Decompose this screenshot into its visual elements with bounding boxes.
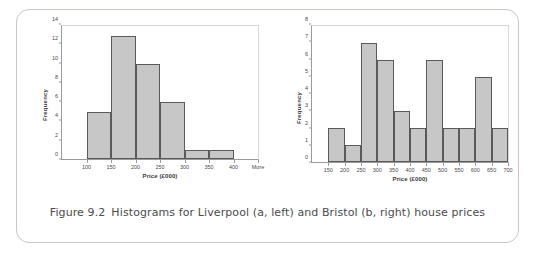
plot-wrap-liverpool: 02468101214 100150200250300350400More Pr… <box>61 25 259 160</box>
y-tick-mark <box>59 81 62 82</box>
y-tick-mark <box>59 24 62 25</box>
histogram-bristol: Frequency 012345678 15020025030035040045… <box>275 10 520 200</box>
x-tick-mark <box>160 160 161 163</box>
y-tick-label: 5 <box>305 68 311 74</box>
y-tick-mark <box>59 120 62 121</box>
histogram-bar <box>394 111 410 162</box>
x-tick-label: 450 <box>422 167 431 173</box>
x-tick-label: 700 <box>503 167 512 173</box>
y-tick-mark <box>309 127 312 128</box>
figure-frame: Frequency 02468101214 100150200250300350… <box>16 9 519 243</box>
x-tick-label: 150 <box>106 164 115 170</box>
y-tick-label: 4 <box>55 112 61 118</box>
figure-caption: Figure 9.2Histograms for Liverpool (a, l… <box>17 206 518 219</box>
histogram-bar <box>377 60 393 162</box>
y-tick-mark <box>309 24 312 25</box>
x-tick-label: 150 <box>324 167 333 173</box>
x-tick-mark <box>136 160 137 163</box>
y-tick-mark <box>309 110 312 111</box>
y-tick-mark <box>309 75 312 76</box>
x-tick-mark <box>258 160 259 163</box>
y-tick-label: 8 <box>305 16 311 22</box>
x-tick-mark <box>361 163 362 166</box>
x-tick-label: More <box>252 164 265 170</box>
x-tick-mark <box>345 163 346 166</box>
y-tick-label: 7 <box>305 33 311 39</box>
y-axis-label-liverpool: Frequency <box>42 75 48 135</box>
figure-caption-text: Histograms for Liverpool (a, left) and B… <box>111 206 485 219</box>
bars-bristol <box>312 26 508 162</box>
histogram-bar <box>209 150 234 160</box>
x-tick-label: 200 <box>131 164 140 170</box>
histogram-bar <box>443 128 459 162</box>
x-tick-label: 100 <box>82 164 91 170</box>
y-tick-label: 8 <box>55 74 61 80</box>
y-tick-label: 1 <box>305 137 311 143</box>
histogram-bar <box>345 145 361 162</box>
bars-liverpool <box>62 26 258 159</box>
x-axis-label-bristol: Price (£000) <box>311 176 509 182</box>
histogram-bar <box>185 150 210 160</box>
x-tick-label: 350 <box>204 164 213 170</box>
x-tick-label: 650 <box>487 167 496 173</box>
histogram-bar <box>87 112 112 160</box>
y-tick-mark <box>309 144 312 145</box>
y-tick-mark <box>309 41 312 42</box>
y-tick-label: 14 <box>52 16 61 22</box>
histogram-bar <box>136 64 161 159</box>
y-tick-label: 4 <box>305 85 311 91</box>
y-tick-label: 10 <box>52 55 61 61</box>
charts-row: Frequency 02468101214 100150200250300350… <box>17 10 520 200</box>
x-tick-mark <box>410 163 411 166</box>
x-tick-mark <box>185 160 186 163</box>
y-tick-label: 6 <box>305 51 311 57</box>
x-tick-mark <box>234 160 235 163</box>
x-tick-mark <box>394 163 395 166</box>
histogram-bar <box>475 77 491 162</box>
y-tick-mark <box>59 159 62 160</box>
histogram-bar <box>361 43 377 162</box>
y-axis-label-bristol: Frequency <box>296 78 302 138</box>
x-tick-label: 350 <box>389 167 398 173</box>
x-tick-label: 400 <box>405 167 414 173</box>
x-tick-mark <box>492 163 493 166</box>
x-tick-mark <box>475 163 476 166</box>
y-tick-mark <box>309 58 312 59</box>
x-tick-label: 600 <box>471 167 480 173</box>
y-tick-label: 2 <box>55 132 61 138</box>
x-tick-mark <box>328 163 329 166</box>
y-tick-label: 2 <box>305 120 311 126</box>
y-tick-label: 12 <box>52 35 61 41</box>
histogram-bar <box>410 128 426 162</box>
y-tick-label: 3 <box>305 102 311 108</box>
histogram-bar <box>426 60 442 162</box>
plot-wrap-bristol: 012345678 150200250300350400450500550600… <box>311 25 509 163</box>
histogram-bar <box>111 36 136 160</box>
x-tick-mark <box>87 160 88 163</box>
y-tick-label: 6 <box>55 93 61 99</box>
x-tick-label: 400 <box>229 164 238 170</box>
x-tick-mark <box>459 163 460 166</box>
x-tick-label: 300 <box>373 167 382 173</box>
x-tick-mark <box>443 163 444 166</box>
x-tick-label: 250 <box>356 167 365 173</box>
x-axis-label-liverpool: Price (£000) <box>61 173 259 179</box>
x-tick-label: 550 <box>454 167 463 173</box>
x-tick-label: 300 <box>180 164 189 170</box>
y-tick-label: 0 <box>55 151 61 157</box>
x-tick-mark <box>426 163 427 166</box>
histogram-liverpool: Frequency 02468101214 100150200250300350… <box>23 10 273 200</box>
y-tick-mark <box>59 101 62 102</box>
x-tick-label: 500 <box>438 167 447 173</box>
y-tick-mark <box>59 62 62 63</box>
histogram-bar <box>328 128 344 162</box>
x-tick-mark <box>508 163 509 166</box>
y-tick-label: 0 <box>305 154 311 160</box>
x-tick-mark <box>209 160 210 163</box>
histogram-bar <box>492 128 508 162</box>
x-tick-mark <box>377 163 378 166</box>
x-tick-label: 200 <box>340 167 349 173</box>
x-tick-mark <box>111 160 112 163</box>
x-tick-label: 250 <box>155 164 164 170</box>
figure-caption-number: Figure 9.2 <box>50 206 106 219</box>
